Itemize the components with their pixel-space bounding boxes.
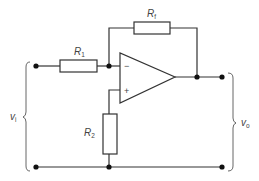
output-common-node bbox=[219, 164, 224, 169]
vi-label: vi bbox=[10, 111, 16, 123]
vo-label: vo bbox=[241, 117, 250, 129]
resistor-r2: R2 bbox=[84, 114, 117, 154]
input-common-node bbox=[33, 164, 38, 169]
r2-ground-node bbox=[106, 164, 111, 169]
output-terminal-node bbox=[219, 74, 224, 79]
input-terminal-node bbox=[33, 63, 38, 68]
op-amp: − + bbox=[120, 53, 175, 103]
r1-label: R1 bbox=[74, 46, 85, 58]
inverting-input-sign: − bbox=[124, 61, 129, 71]
output-voltage-brace: vo bbox=[228, 73, 250, 171]
rf-label: Rf bbox=[147, 8, 156, 20]
inverting-junction-node bbox=[106, 63, 111, 68]
circuit-diagram: R1 Rf − + R2 vi bbox=[0, 0, 259, 181]
resistor-r1: R1 bbox=[60, 46, 97, 72]
noninverting-input-sign: + bbox=[124, 86, 129, 96]
output-junction-node bbox=[194, 74, 199, 79]
input-voltage-brace: vi bbox=[10, 62, 30, 171]
r2-label: R2 bbox=[84, 127, 95, 139]
resistor-rf: Rf bbox=[134, 8, 170, 34]
